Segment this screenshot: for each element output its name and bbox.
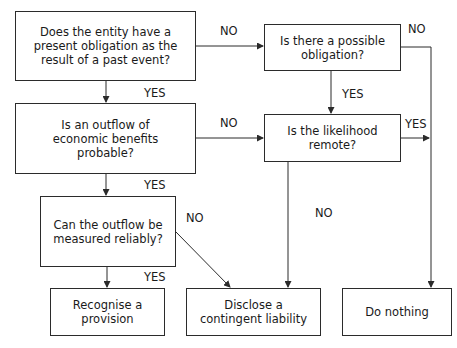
- edge-label-q2-no: NO: [408, 23, 426, 35]
- node-disclose-contingent-liability: Disclose a contingent liability: [186, 288, 321, 336]
- node-text: Do nothing: [365, 305, 428, 319]
- edge-label-q4-no: NO: [315, 207, 333, 219]
- edge-label-q5-no: NO: [186, 212, 204, 224]
- node-text: Disclose a contingent liability: [193, 298, 314, 326]
- node-recognise-provision: Recognise a provision: [50, 288, 165, 336]
- node-present-obligation: Does the entity have a present obligatio…: [15, 11, 196, 81]
- edge-label-q1-yes: YES: [144, 87, 166, 99]
- edge-label-q3-no: NO: [220, 117, 238, 129]
- node-likelihood-remote: Is the likelihood remote?: [264, 114, 401, 162]
- node-measured-reliably: Can the outflow be measured reliably?: [40, 196, 176, 267]
- node-text: Is an outflow of economic benefits proba…: [22, 118, 189, 160]
- node-text: Recognise a provision: [57, 298, 158, 326]
- node-text: Can the outflow be measured reliably?: [47, 218, 169, 246]
- node-text: Does the entity have a present obligatio…: [22, 25, 189, 67]
- edge-label-q3-yes: YES: [144, 179, 166, 191]
- node-text: Is there a possible obligation?: [271, 34, 394, 62]
- edge-label-q1-no: NO: [220, 25, 238, 37]
- node-outflow-probable: Is an outflow of economic benefits proba…: [15, 103, 196, 174]
- node-do-nothing: Do nothing: [342, 288, 452, 336]
- edge-label-q4-yes: YES: [405, 118, 427, 130]
- edge-label-q5-yes: YES: [144, 271, 166, 283]
- edge-label-q2-yes: YES: [342, 88, 364, 100]
- node-possible-obligation: Is there a possible obligation?: [264, 24, 401, 71]
- node-text: Is the likelihood remote?: [271, 124, 394, 152]
